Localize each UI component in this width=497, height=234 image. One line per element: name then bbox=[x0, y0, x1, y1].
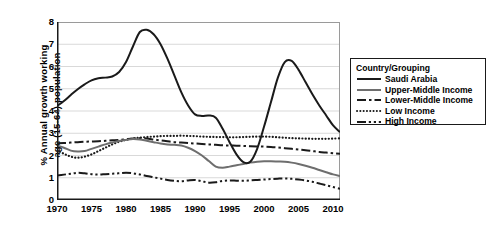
y-tick-label-4: 4 bbox=[40, 106, 54, 116]
y-tick-label-7: 7 bbox=[40, 39, 54, 49]
legend-swatch-dashdot-icon bbox=[356, 95, 382, 105]
x-axis-tick-labels: 197019751980198519901995200020052010 bbox=[57, 203, 340, 219]
y-axis-tick-labels: 876543210 bbox=[38, 22, 54, 200]
y-tick-label-6: 6 bbox=[40, 62, 54, 72]
legend-item-high-income[interactable]: High Income bbox=[356, 116, 485, 127]
x-tick-label-2010: 2010 bbox=[313, 203, 353, 215]
legend-label: High Income bbox=[385, 116, 437, 127]
legend-swatch-solid-icon bbox=[356, 85, 382, 95]
chart-legend: Country/Grouping Saudi ArabiaUpper-Middl… bbox=[350, 58, 486, 125]
legend-items: Saudi ArabiaUpper-Middle IncomeLower-Mid… bbox=[356, 74, 485, 127]
legend-item-saudi-arabia[interactable]: Saudi Arabia bbox=[356, 74, 485, 85]
plot-svg bbox=[57, 22, 340, 200]
legend-label: Lower-Middle Income bbox=[385, 95, 473, 106]
legend-item-lower-middle-income[interactable]: Lower-Middle Income bbox=[356, 95, 485, 106]
legend-label: Saudi Arabia bbox=[385, 74, 437, 85]
chart-figure: % Annual growth working age (15-64) popu… bbox=[0, 0, 497, 234]
legend-item-low-income[interactable]: Low Income bbox=[356, 106, 485, 117]
legend-title: Country/Grouping bbox=[356, 63, 485, 74]
y-tick-label-5: 5 bbox=[40, 84, 54, 94]
series-line-high-income bbox=[57, 173, 340, 189]
y-tick-label-8: 8 bbox=[40, 17, 54, 27]
y-tick-label-3: 3 bbox=[40, 128, 54, 138]
legend-label: Upper-Middle Income bbox=[385, 85, 472, 96]
legend-swatch-solid-icon bbox=[356, 74, 382, 84]
legend-swatch-dashdotdot-icon bbox=[356, 117, 382, 127]
y-tick-label-1: 1 bbox=[40, 173, 54, 183]
legend-swatch-dotted-icon bbox=[356, 106, 382, 116]
y-tick-label-2: 2 bbox=[40, 151, 54, 161]
legend-item-upper-middle-income[interactable]: Upper-Middle Income bbox=[356, 85, 485, 96]
plot-area bbox=[57, 22, 340, 200]
legend-label: Low Income bbox=[385, 106, 435, 117]
